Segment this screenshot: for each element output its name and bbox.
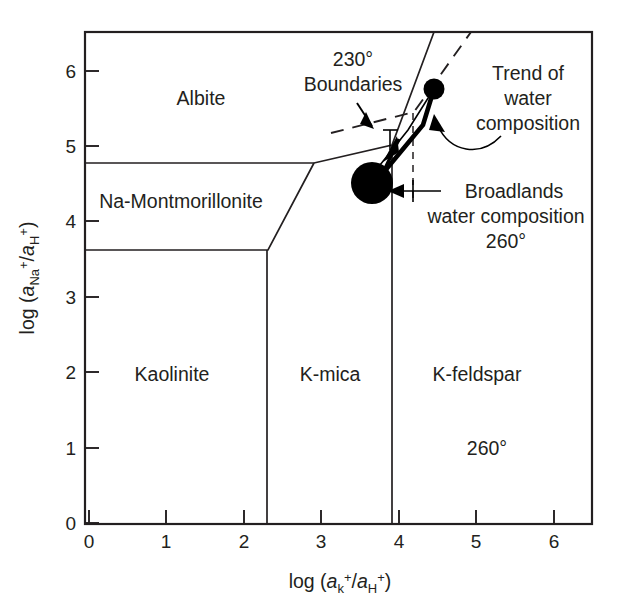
y-axis-title-a2: a <box>16 245 38 256</box>
x-axis-title-a2-sup: + <box>377 570 385 585</box>
annotation-broadlands-line1: Broadlands <box>465 180 564 202</box>
y-axis-title: log (aNa+/aH+) <box>16 222 42 335</box>
x-tick-label-2: 2 <box>239 531 250 552</box>
region-label-kaolinite: Kaolinite <box>135 363 210 385</box>
region-label-260-kfeldspar: 260° <box>467 437 507 459</box>
datapoint-water-230[interactable] <box>424 79 445 100</box>
y-axis-title-lead: log ( <box>16 296 38 334</box>
y-axis-title-close: ) <box>16 222 38 229</box>
y-tick-label-1: 1 <box>65 438 76 459</box>
x-axis-title-a2: a <box>357 570 368 592</box>
datapoint-broadlands-260[interactable] <box>351 162 393 204</box>
activity-diagram-svg: 0 1 2 3 4 5 6 0 1 2 3 4 5 6 <box>0 0 618 613</box>
activity-diagram-figure: 0 1 2 3 4 5 6 0 1 2 3 4 5 6 <box>0 0 618 613</box>
region-label-k-feldspar: K-feldspar <box>433 363 522 385</box>
x-tick-label-5: 5 <box>471 531 482 552</box>
callout-trend-arrowhead <box>429 114 445 132</box>
x-axis-title-lead: log ( <box>289 570 327 592</box>
y-tick-label-5: 5 <box>65 136 76 157</box>
annotation-230-line2: Boundaries <box>304 73 403 95</box>
y-axis-title-a1: a <box>16 285 38 296</box>
callout-230-arrowhead <box>360 112 374 129</box>
x-axis-title: log (ak+/aH+) <box>289 570 392 596</box>
y-axis-ticks <box>85 71 99 523</box>
annotation-trend-of-water: Trend of water composition <box>476 62 580 134</box>
x-axis-ticks <box>89 510 554 524</box>
annotation-trend-line1: Trend of <box>492 62 564 84</box>
x-axis-title-a1-sup: + <box>344 570 352 585</box>
x-tick-label-6: 6 <box>549 531 560 552</box>
x-tick-label-1: 1 <box>161 531 172 552</box>
y-tick-label-6: 6 <box>65 61 76 82</box>
x-tick-labels: 0 1 2 3 4 5 6 <box>84 531 560 552</box>
x-axis-title-a1: a <box>327 570 338 592</box>
annotation-trend-line2: water <box>503 87 552 109</box>
annotation-230-boundaries: 230° Boundaries <box>304 48 403 95</box>
region-label-k-mica: K-mica <box>300 363 361 385</box>
x-tick-label-4: 4 <box>394 531 405 552</box>
region-labels: Albite Na-Montmorillonite Kaolinite K-mi… <box>99 87 522 459</box>
annotation-trend-line3: composition <box>476 112 580 134</box>
annotation-230-line1: 230° <box>333 48 373 70</box>
x-axis-title-close: ) <box>385 570 392 592</box>
x-tick-label-3: 3 <box>316 531 327 552</box>
y-axis-title-a1-sup: + <box>16 261 31 269</box>
svg-text:log (aNa+/aH+): log (aNa+/aH+) <box>16 222 42 335</box>
y-tick-label-0: 0 <box>65 513 76 534</box>
y-tick-label-2: 2 <box>65 362 76 383</box>
region-label-na-montmorillonite: Na-Montmorillonite <box>99 190 263 212</box>
y-axis-title-a2-sup: + <box>16 228 31 236</box>
annotation-broadlands-line2: water composition <box>426 205 584 227</box>
y-tick-labels: 0 1 2 3 4 5 6 <box>65 61 76 534</box>
x-axis-title-a2-sub: H <box>368 581 377 596</box>
y-tick-label-4: 4 <box>65 211 76 232</box>
boundary-albite-namont <box>85 32 434 163</box>
y-tick-label-3: 3 <box>65 287 76 308</box>
y-axis-title-a2-sub: H <box>27 236 42 245</box>
y-axis-title-a1-sub: Na <box>27 268 42 285</box>
region-label-albite: Albite <box>177 87 226 109</box>
x-tick-label-0: 0 <box>84 531 95 552</box>
annotation-broadlands-line3: 260° <box>486 230 526 252</box>
annotation-broadlands: Broadlands water composition 260° <box>426 180 584 252</box>
svg-text:log (ak+/aH+): log (ak+/aH+) <box>289 570 392 596</box>
